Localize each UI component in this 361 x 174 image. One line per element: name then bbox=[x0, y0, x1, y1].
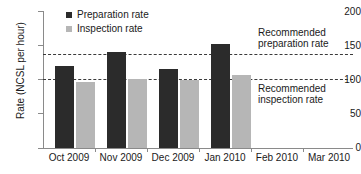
x-axis-label-dec-2009: Dec 2009 bbox=[147, 152, 199, 163]
chart-legend: Preparation rate Inspection rate bbox=[66, 9, 149, 37]
bar-preparation-oct-2009 bbox=[55, 66, 74, 148]
x-axis-label-nov-2009: Nov 2009 bbox=[95, 152, 147, 163]
bar-inspection-nov-2009 bbox=[128, 79, 147, 148]
legend-swatch-icon-inspection bbox=[66, 26, 72, 32]
y-axis-title: Rate (NCSL per hour) bbox=[15, 1, 26, 141]
legend-label-preparation: Preparation rate bbox=[77, 10, 149, 20]
bar-preparation-dec-2009 bbox=[159, 69, 178, 148]
legend-swatch-icon-preparation bbox=[66, 12, 72, 18]
bar-preparation-jan-2010 bbox=[211, 44, 230, 148]
x-axis-label-mar-2010: Mar 2010 bbox=[303, 152, 355, 163]
annotation-preparation-line2: preparation rate bbox=[258, 38, 329, 49]
annotation-inspection-line1: Recommended bbox=[258, 83, 326, 94]
x-axis-label-jan-2010: Jan 2010 bbox=[199, 152, 251, 163]
bar-chart: Rate (NCSL per hour) 200 150 100 50 0 bbox=[0, 0, 361, 174]
legend-label-inspection: Inspection rate bbox=[77, 24, 143, 34]
bar-inspection-jan-2010 bbox=[232, 75, 251, 148]
annotation-recommended-inspection: Recommended inspection rate bbox=[258, 83, 326, 105]
legend-item-inspection-rate: Inspection rate bbox=[66, 23, 149, 35]
annotation-preparation-line1: Recommended bbox=[258, 27, 329, 38]
annotation-recommended-preparation: Recommended preparation rate bbox=[258, 27, 329, 49]
bar-inspection-oct-2009 bbox=[76, 82, 95, 148]
annotation-inspection-line2: inspection rate bbox=[258, 94, 326, 105]
bar-preparation-nov-2009 bbox=[107, 52, 126, 148]
x-axis-label-oct-2009: Oct 2009 bbox=[43, 152, 95, 163]
x-axis-line bbox=[43, 148, 353, 149]
bar-inspection-dec-2009 bbox=[180, 80, 199, 148]
x-axis-label-feb-2010: Feb 2010 bbox=[251, 152, 303, 163]
reference-line-preparation bbox=[43, 54, 353, 55]
legend-item-preparation-rate: Preparation rate bbox=[66, 9, 149, 21]
